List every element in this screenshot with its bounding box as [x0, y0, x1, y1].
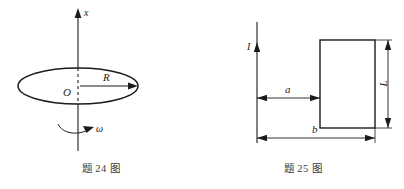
figure-sheet: x O R ω 题 24 图 [0, 0, 404, 189]
axis-label: x [84, 8, 88, 18]
origin-label: O [63, 87, 71, 98]
figure-24: x O R ω 题 24 图 [0, 0, 202, 189]
angular-velocity-label: ω [96, 124, 103, 134]
current-label: I [247, 42, 250, 52]
axis-arrowhead-icon [75, 8, 82, 18]
figure-24-caption: 题 24 图 [0, 160, 202, 175]
dimension-L-arrowhead-top-icon [385, 40, 391, 50]
figure-25: I a b L 题 25 图 [202, 0, 404, 189]
radius-label: R [103, 72, 110, 83]
dimension-L-arrowhead-bottom-icon [385, 118, 391, 128]
dimension-a-arrowhead-right-icon [310, 95, 320, 101]
current-arrowhead-icon [254, 42, 260, 52]
distance-a-label: a [285, 84, 291, 95]
figure-25-caption: 题 25 图 [202, 160, 404, 175]
dimension-b-arrowhead-right-icon [365, 135, 375, 141]
distance-b-label: b [312, 124, 318, 135]
dimension-b-arrowhead-left-icon [257, 135, 267, 141]
dimension-a-arrowhead-left-icon [257, 95, 267, 101]
height-L-label: L [378, 80, 389, 86]
rotation-arc [58, 124, 88, 133]
rectangular-loop [320, 40, 375, 128]
radius-arrowhead-icon [128, 83, 138, 90]
